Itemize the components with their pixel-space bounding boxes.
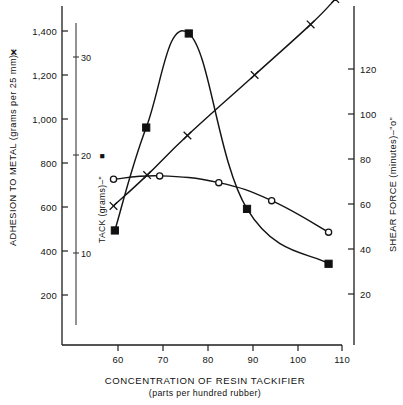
right-ticklabel-20: 20 bbox=[360, 289, 371, 300]
data-point-square bbox=[243, 205, 250, 212]
data-point-cross bbox=[143, 171, 151, 179]
tack-ticklabel-30: 30 bbox=[81, 53, 91, 63]
left-ticklabel-600: 600 bbox=[41, 202, 57, 213]
cross-marker-icon: ✕ bbox=[9, 48, 19, 56]
series-square bbox=[111, 30, 332, 268]
data-point-cross bbox=[331, 0, 339, 3]
series-cross bbox=[110, 0, 339, 210]
right-axis-title-group: SHEAR FORCE (minutes)–"o" bbox=[388, 117, 398, 252]
tack-ticklabel-10: 10 bbox=[81, 249, 91, 259]
data-point-square bbox=[143, 124, 150, 131]
tack-axis-title-group: TACK (grams)–" ■ bbox=[97, 153, 107, 243]
tack-axis: 30 20 10 TACK (grams)–" ■ bbox=[73, 23, 107, 325]
data-point-square bbox=[325, 260, 332, 267]
left-ticklabel-400: 400 bbox=[41, 246, 57, 257]
chart-figure: 1,400 1,200 1,000 800 600 400 200 ADHESI… bbox=[0, 0, 403, 405]
bottom-ticklabel-100: 100 bbox=[290, 354, 306, 365]
bottom-ticklabel-80: 80 bbox=[203, 354, 214, 365]
left-ticklabel-1000: 1,000 bbox=[32, 114, 57, 125]
data-point-circle bbox=[110, 176, 116, 182]
data-point-circle bbox=[325, 229, 331, 235]
series-line-square bbox=[115, 31, 329, 264]
right-ticklabel-60: 60 bbox=[360, 199, 371, 210]
bottom-axis: 60 70 80 90 100 110 CONCENTRATION OF RES… bbox=[62, 345, 350, 398]
x-axis-subtitle: (parts per hundred rubber) bbox=[149, 388, 261, 398]
series-circle bbox=[110, 173, 331, 235]
bottom-ticklabel-60: 60 bbox=[113, 354, 124, 365]
data-point-circle bbox=[216, 180, 222, 186]
right-ticklabel-120: 120 bbox=[360, 64, 376, 75]
data-point-square bbox=[111, 227, 118, 234]
data-point-circle bbox=[269, 198, 275, 204]
data-point-circle bbox=[157, 173, 163, 179]
left-ticklabel-1200: 1,200 bbox=[32, 70, 57, 81]
chart-svg: 1,400 1,200 1,000 800 600 400 200 ADHESI… bbox=[0, 0, 403, 405]
right-ticklabel-100: 100 bbox=[360, 109, 376, 120]
right-axis: 120 100 80 60 40 20 SHEAR FORCE (minutes… bbox=[348, 6, 398, 345]
left-axis-title: ADHESION TO METAL (grams per 25 mm)– bbox=[8, 48, 18, 246]
square-marker-icon: ■ bbox=[97, 153, 107, 159]
data-point-cross bbox=[184, 132, 192, 140]
x-axis-title: CONCENTRATION OF RESIN TACKIFIER bbox=[105, 375, 305, 386]
bottom-ticklabel-90: 90 bbox=[248, 354, 259, 365]
data-point-cross bbox=[307, 21, 315, 29]
left-ticklabel-800: 800 bbox=[41, 158, 57, 169]
left-ticklabel-1400: 1,400 bbox=[32, 26, 57, 37]
data-point-cross bbox=[110, 202, 118, 210]
bottom-ticklabel-70: 70 bbox=[158, 354, 169, 365]
data-point-square bbox=[185, 30, 192, 37]
bottom-ticklabel-110: 110 bbox=[334, 354, 350, 365]
tack-axis-title: TACK (grams)–" bbox=[97, 176, 107, 243]
tack-ticklabel-20: 20 bbox=[81, 151, 91, 161]
left-ticklabel-200: 200 bbox=[41, 290, 57, 301]
left-axis-title-group: ADHESION TO METAL (grams per 25 mm)– ✕ bbox=[8, 48, 19, 246]
right-ticklabel-40: 40 bbox=[360, 244, 371, 255]
right-axis-title: SHEAR FORCE (minutes)–"o" bbox=[388, 117, 398, 252]
data-point-cross bbox=[251, 71, 259, 79]
left-axis: 1,400 1,200 1,000 800 600 400 200 ADHESI… bbox=[8, 6, 68, 345]
series-layer bbox=[110, 0, 339, 267]
right-ticklabel-80: 80 bbox=[360, 154, 371, 165]
